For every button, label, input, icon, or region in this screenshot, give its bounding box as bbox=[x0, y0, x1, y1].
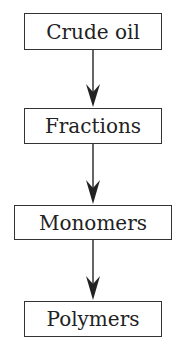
arrow-crude-oil-to-fractions bbox=[86, 50, 100, 107]
node-polymers: Polymers bbox=[24, 301, 162, 337]
node-label: Crude oil bbox=[46, 20, 140, 44]
node-fractions: Fractions bbox=[24, 108, 162, 144]
node-crude-oil: Crude oil bbox=[24, 13, 162, 50]
node-label: Monomers bbox=[39, 211, 147, 235]
arrow-monomers-to-polymers bbox=[86, 240, 100, 300]
node-label: Polymers bbox=[46, 307, 139, 331]
arrows-layer bbox=[0, 0, 181, 346]
arrow-fractions-to-monomers bbox=[86, 144, 100, 204]
node-monomers: Monomers bbox=[14, 205, 172, 240]
node-label: Fractions bbox=[45, 114, 141, 138]
